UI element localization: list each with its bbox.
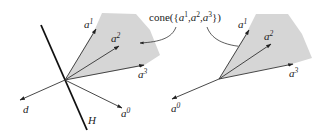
vector-d [20, 80, 65, 100]
label-a1-left: a1 [84, 17, 93, 30]
label-a0-left: a0 [121, 106, 131, 119]
cone-diagram: a1 a2 a3 a0 d H cone({a1,a2,a3}) a1 a2 a… [0, 0, 327, 139]
cone-label: cone({a1,a2,a3}) [149, 10, 221, 24]
label-a0-right: a0 [171, 101, 181, 114]
label-H: H [87, 114, 97, 126]
label-a1-right: a1 [238, 17, 247, 30]
label-d: d [23, 103, 29, 115]
label-a3-right: a3 [289, 66, 299, 79]
cone-annotation: cone({a1,a2,a3}) [140, 10, 248, 47]
vector-a0-right [172, 79, 219, 99]
label-a3-left: a3 [138, 67, 148, 80]
vector-a0-left [65, 80, 122, 108]
right-panel: a1 a2 a3 a0 [171, 14, 312, 114]
left-panel: a1 a2 a3 a0 d H [20, 13, 160, 130]
